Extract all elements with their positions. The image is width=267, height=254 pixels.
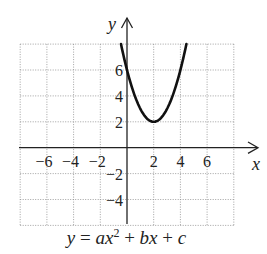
x-tick-label: −2 xyxy=(89,153,106,170)
x-tick-label: 6 xyxy=(203,153,211,170)
y-tick-label: 6 xyxy=(115,62,123,79)
y-tick-label: −2 xyxy=(106,166,123,183)
x-tick-label: −4 xyxy=(62,153,79,170)
y-tick-label: −4 xyxy=(106,192,123,209)
caption-plus-2: + xyxy=(162,227,173,248)
chart: −6−4−2246642−2−4 x y xyxy=(0,0,267,254)
equation-caption: y = ax2 + bx + c xyxy=(0,226,253,249)
x-tick-label: 2 xyxy=(150,153,158,170)
caption-bx: bx xyxy=(140,227,158,248)
caption-exponent: 2 xyxy=(113,226,119,240)
parabola-curve xyxy=(121,44,186,122)
caption-equals: = xyxy=(80,227,91,248)
y-axis-label: y xyxy=(106,14,116,34)
axes xyxy=(19,18,258,224)
caption-y: y xyxy=(67,227,75,248)
y-tick-label: 2 xyxy=(115,114,123,131)
tick-labels: −6−4−2246642−2−4 xyxy=(35,62,211,209)
caption-ax: ax xyxy=(95,227,113,248)
x-axis-label: x xyxy=(251,154,260,174)
x-tick-label: 4 xyxy=(176,153,184,170)
caption-plus-1: + xyxy=(124,227,135,248)
caption-c: c xyxy=(178,227,186,248)
x-tick-label: −6 xyxy=(35,153,52,170)
y-tick-label: 4 xyxy=(115,88,123,105)
